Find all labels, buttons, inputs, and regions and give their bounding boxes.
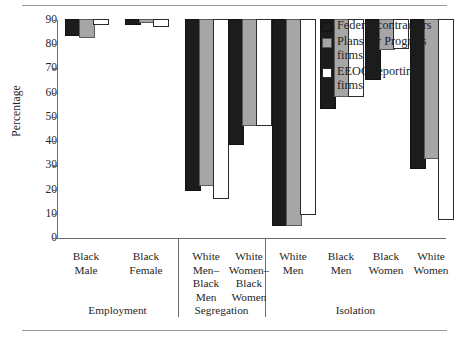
- bar: [153, 19, 169, 27]
- x-category-label-line: Women: [218, 291, 280, 305]
- legend: Federal contractorsPlans for Progressfir…: [322, 18, 467, 94]
- bar: [300, 19, 316, 215]
- x-category-label-line: Male: [55, 264, 117, 278]
- x-category-label-line: Black: [218, 277, 280, 291]
- x-category-label-line: White: [400, 250, 462, 264]
- y-axis-title: Percentage: [10, 51, 22, 171]
- bar: [256, 19, 272, 126]
- bar-cluster: [65, 20, 107, 239]
- x-category-label: WhiteWomen: [400, 250, 462, 277]
- bar: [93, 19, 109, 25]
- x-category-label: BlackMale: [55, 250, 117, 277]
- x-category-label-line: Women: [400, 264, 462, 278]
- legend-label-line: Federal contractors: [337, 18, 432, 33]
- legend-swatch-icon: [322, 38, 332, 48]
- legend-label: EEOC-reportingfirms: [337, 64, 418, 93]
- x-category-label-line: Black: [55, 250, 117, 264]
- bar: [213, 19, 229, 199]
- bar-chart-figure: 0102030405060708090 Percentage BlackMale…: [0, 0, 469, 347]
- legend-label: Plans for Progressfirms: [337, 34, 427, 63]
- bar-cluster: [125, 20, 167, 239]
- legend-label-line: EEOC-reporting: [337, 64, 418, 79]
- bottom-rule: [22, 330, 447, 331]
- legend-swatch-icon: [322, 22, 332, 32]
- x-category-label-line: Black: [115, 250, 177, 264]
- x-group-label: Segregation: [178, 304, 265, 317]
- x-category-label: BlackFemale: [115, 250, 177, 277]
- legend-label-line: Plans for Progress: [337, 34, 427, 49]
- legend-swatch-icon: [322, 68, 332, 78]
- legend-item: EEOC-reportingfirms: [322, 64, 467, 93]
- legend-label-line: firms: [337, 78, 418, 93]
- legend-label: Federal contractors: [337, 18, 432, 33]
- legend-label-line: firms: [337, 48, 427, 63]
- legend-item: Federal contractors: [322, 18, 467, 33]
- x-group-label: Isolation: [265, 304, 446, 317]
- x-category-label-line: Female: [115, 264, 177, 278]
- bar-cluster: [272, 20, 314, 239]
- x-group-label: Employment: [57, 304, 178, 317]
- bar-cluster: [185, 20, 227, 239]
- top-rule: [22, 5, 447, 6]
- legend-item: Plans for Progressfirms: [322, 34, 467, 63]
- y-axis: 0102030405060708090: [0, 0, 57, 347]
- bar-cluster: [228, 20, 270, 239]
